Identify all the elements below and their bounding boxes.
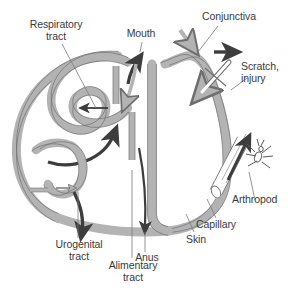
label-arthropod: Arthropod [232,194,288,206]
leader-conjunctiva [198,26,218,52]
entry-routes-diagram: Respiratory tract Mouth Conjunctiva Scra… [0,0,288,298]
label-mouth: Mouth [117,28,165,40]
label-skin: Skin [181,234,211,246]
label-capillary: Capillary [196,219,254,231]
label-alimentary-tract: Alimentary tract [97,260,169,283]
arthropod [246,139,273,168]
alimentary-tract-tube [113,64,168,235]
label-scratch-injury: Scratch, injury [241,61,288,84]
label-conjunctiva: Conjunctiva [193,11,265,23]
label-urogenital-tract: Urogenital tract [43,239,115,262]
leader-mouth [140,42,142,52]
anus-exit-arrow [139,148,145,228]
label-respiratory-tract: Respiratory tract [18,19,94,42]
conjunctiva-entry-arrow [180,30,191,45]
urogenital-tract-tube [30,142,87,196]
